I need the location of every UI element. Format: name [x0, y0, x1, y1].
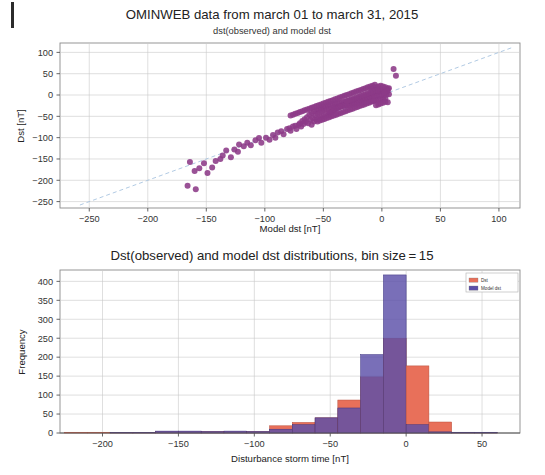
scatter-subtitle: dst(observed) and model dst [213, 26, 331, 36]
svg-text:100: 100 [38, 48, 53, 58]
svg-text:0: 0 [48, 428, 53, 438]
svg-text:−100: −100 [244, 439, 265, 449]
histogram-title: Dst(observed) and model dst distribution… [110, 248, 433, 263]
svg-text:0: 0 [404, 439, 409, 449]
svg-text:50: 50 [477, 439, 487, 449]
histogram-panel: Dst(observed) and model dst distribution… [0, 240, 545, 475]
svg-text:−50: −50 [322, 439, 338, 449]
histogram-plot-svg: Dst(observed) and model dst distribution… [0, 240, 545, 475]
svg-text:150: 150 [38, 371, 53, 381]
svg-text:−200: −200 [92, 439, 113, 449]
histogram-frame [60, 270, 520, 433]
histogram-y-tick-labels: 050100150200250300350400 [38, 277, 53, 439]
svg-text:−200: −200 [137, 214, 158, 224]
scatter-x-axis-label: Model dst [nT] [260, 223, 321, 234]
svg-text:0: 0 [379, 214, 384, 224]
scatter-y-tick-labels: 100500−50−100−150−200−250 [32, 48, 53, 207]
histogram-plot-area: −200−150−100−50050 050100150200250300350… [38, 270, 520, 449]
svg-text:0: 0 [48, 90, 53, 100]
svg-text:350: 350 [38, 296, 53, 306]
svg-text:300: 300 [38, 315, 53, 325]
scatter-title: OMINWEB data from march 01 to march 31, … [126, 7, 418, 22]
svg-text:50: 50 [43, 409, 53, 419]
svg-text:−100: −100 [32, 133, 53, 143]
figure-canvas: OMINWEB data from march 01 to march 31, … [0, 0, 545, 475]
svg-text:−50: −50 [37, 112, 53, 122]
svg-text:400: 400 [38, 277, 53, 287]
scatter-panel: OMINWEB data from march 01 to march 31, … [0, 0, 545, 240]
histogram-x-axis-label: Disturbance storm time [nT] [231, 453, 349, 464]
svg-text:−250: −250 [79, 214, 100, 224]
histogram-legend[interactable]: DstModel dst [466, 273, 518, 292]
svg-text:100: 100 [38, 390, 53, 400]
svg-text:−150: −150 [32, 154, 53, 164]
svg-text:250: 250 [38, 334, 53, 344]
svg-text:100: 100 [491, 214, 506, 224]
histogram-x-tick-labels: −200−150−100−50050 [92, 439, 487, 449]
svg-text:−150: −150 [196, 214, 217, 224]
svg-text:Dst: Dst [481, 278, 489, 283]
scatter-plot-area: −250−200−150−100−50050100 100500−50−100−… [32, 43, 520, 224]
scatter-plot-svg: OMINWEB data from march 01 to march 31, … [0, 0, 545, 240]
svg-text:200: 200 [38, 352, 53, 362]
svg-text:50: 50 [435, 214, 445, 224]
histogram-y-axis-label: Frequency [16, 329, 27, 375]
svg-text:50: 50 [43, 69, 53, 79]
scatter-y-axis-label: Dst [nT] [15, 109, 26, 143]
svg-text:−200: −200 [32, 176, 53, 186]
svg-text:−250: −250 [32, 197, 53, 207]
svg-text:−150: −150 [168, 439, 189, 449]
svg-text:Model dst: Model dst [481, 286, 502, 291]
